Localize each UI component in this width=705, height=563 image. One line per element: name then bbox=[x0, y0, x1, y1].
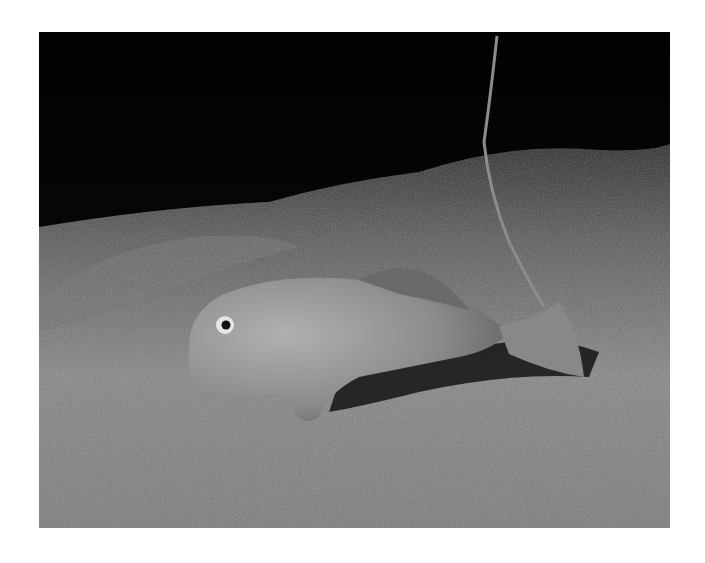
seafloor-scene bbox=[39, 32, 670, 528]
photograph bbox=[39, 32, 670, 528]
